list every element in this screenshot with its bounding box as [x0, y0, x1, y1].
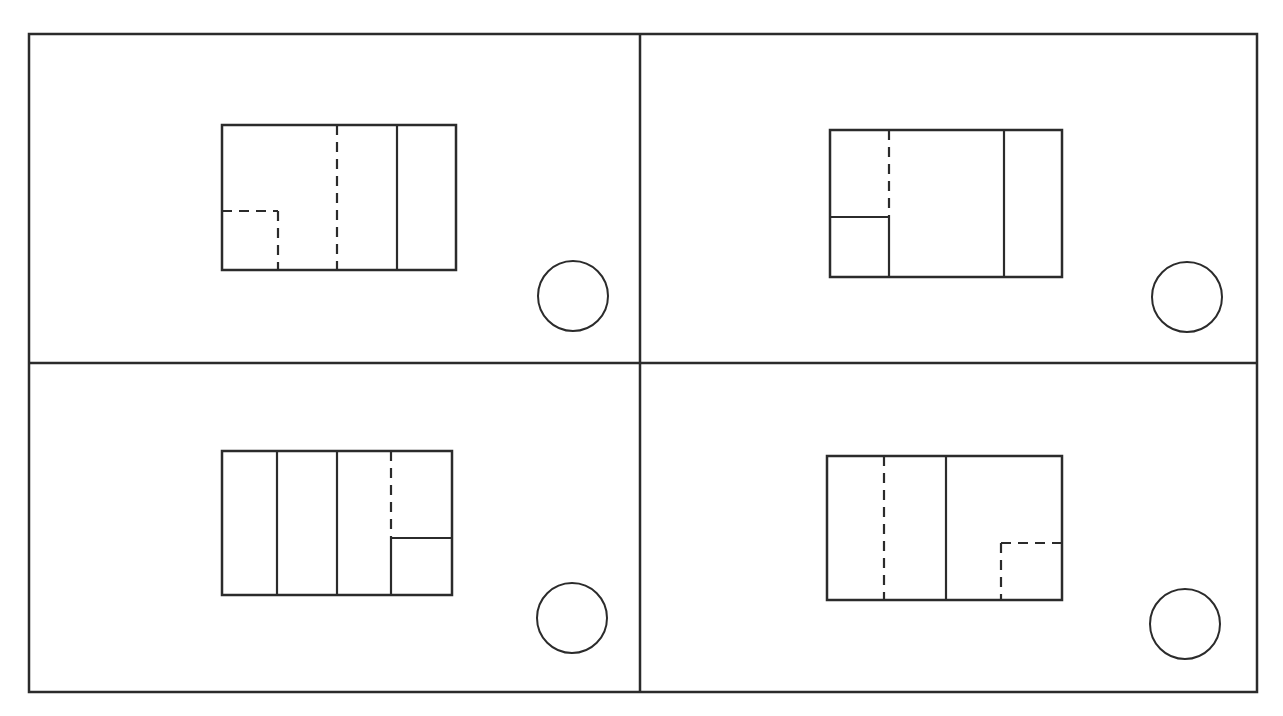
- answer-circle: [538, 261, 608, 331]
- panel-top-left: [222, 125, 608, 331]
- panels: [222, 125, 1222, 659]
- diagram-canvas: [0, 0, 1283, 716]
- answer-circle: [537, 583, 607, 653]
- panel-top-right: [830, 130, 1222, 332]
- panel-bottom-left: [222, 451, 607, 653]
- outer-frame: [29, 34, 1257, 692]
- floor-plan-rect: [827, 456, 1062, 600]
- panel-bottom-right: [827, 456, 1220, 659]
- floor-plan-rect: [830, 130, 1062, 277]
- answer-circle: [1150, 589, 1220, 659]
- answer-circle: [1152, 262, 1222, 332]
- floor-plan-rect: [222, 125, 456, 270]
